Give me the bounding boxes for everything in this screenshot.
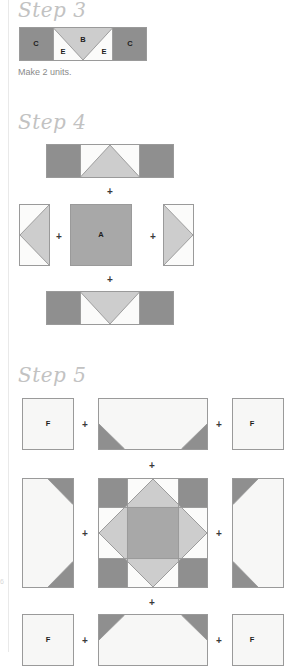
step4-top-bar-svg — [47, 145, 173, 177]
step5-center-block — [98, 478, 208, 588]
patch-c-left — [47, 145, 80, 177]
patch-f — [233, 399, 283, 449]
step5-bottom-bar-svg — [99, 615, 207, 665]
step5-plus-7: + — [82, 636, 88, 646]
step5-center-block-svg — [99, 479, 207, 587]
step4-plus-4: + — [107, 275, 113, 285]
step5-top-left-square-svg — [23, 399, 73, 449]
page-gutter-rule — [8, 0, 9, 652]
patch-c-right — [113, 28, 146, 60]
step5-top-right-square-svg — [233, 399, 283, 449]
patch-a — [71, 205, 131, 265]
step4-plus-3: + — [150, 232, 156, 242]
patch-f — [233, 615, 283, 665]
step4-plus-1: + — [107, 187, 113, 197]
step5-plus-2: + — [216, 420, 222, 430]
step-5-heading: Step 5 — [18, 363, 86, 387]
step5-top-bar — [98, 398, 208, 450]
patch-corner-top-left — [99, 479, 127, 507]
step-4-heading: Step 4 — [18, 110, 86, 134]
step3-flying-geese-svg — [20, 28, 146, 60]
step5-left-rect-svg — [23, 479, 73, 587]
step5-plus-6: + — [149, 598, 155, 608]
patch-c-left — [20, 28, 53, 60]
step5-bottom-bar — [98, 614, 208, 666]
step4-center-square — [70, 204, 132, 266]
patch-corner-bottom-right — [179, 559, 207, 587]
step5-top-left-square — [22, 398, 74, 450]
patch-f — [23, 399, 73, 449]
step4-left-rect-svg — [20, 205, 49, 265]
page-number-edge-mark: 6 — [0, 578, 4, 585]
step4-top-bar — [46, 144, 174, 178]
step5-top-right-square — [232, 398, 284, 450]
step5-top-bar-svg — [99, 399, 207, 449]
step4-left-rect — [19, 204, 50, 266]
step5-right-rect-svg — [233, 479, 283, 587]
step5-left-rect — [22, 478, 74, 588]
patch-a-center — [127, 507, 178, 558]
step4-right-rect — [163, 204, 194, 266]
patch-corner-top-right — [179, 479, 207, 507]
step4-bottom-bar-svg — [47, 292, 173, 324]
step5-plus-1: + — [82, 420, 88, 430]
step5-plus-3: + — [149, 461, 155, 471]
patch-c-right — [140, 145, 173, 177]
patch-c-right — [140, 292, 173, 324]
step5-bottom-right-square — [232, 614, 284, 666]
step-3-caption: Make 2 units. — [18, 67, 72, 77]
step5-bottom-right-square-svg — [233, 615, 283, 665]
step4-right-rect-svg — [164, 205, 193, 265]
patch-corner-bottom-left — [99, 559, 127, 587]
step5-plus-5: + — [216, 529, 222, 539]
step3-flying-geese-bar — [19, 27, 147, 61]
step5-plus-4: + — [82, 529, 88, 539]
step5-bottom-left-square — [22, 614, 74, 666]
step4-plus-2: + — [56, 232, 62, 242]
step5-right-rect — [232, 478, 284, 588]
step4-bottom-bar — [46, 291, 174, 325]
step5-bottom-left-square-svg — [23, 615, 73, 665]
patch-c-left — [47, 292, 80, 324]
step-3-heading: Step 3 — [18, 0, 86, 22]
step5-plus-8: + — [216, 636, 222, 646]
patch-f — [23, 615, 73, 665]
step4-center-square-svg — [71, 205, 131, 265]
